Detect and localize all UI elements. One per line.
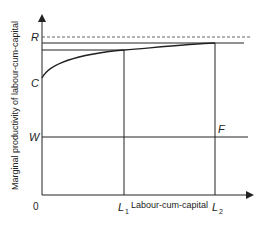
- l2-subscript: 2: [219, 208, 223, 215]
- f-label: F: [218, 123, 226, 135]
- r-label: R: [31, 31, 39, 43]
- origin-label: 0: [33, 201, 39, 212]
- productivity-curve: [42, 43, 215, 78]
- x-axis-label: Labour-cum-capital: [131, 200, 208, 210]
- w-label: W: [29, 131, 41, 143]
- l1-subscript: 1: [125, 208, 129, 215]
- l1-label: L: [118, 201, 124, 213]
- diagram-canvas: R C W F 0 L 1 Labour-cum-capital L 2 Mar…: [0, 0, 270, 225]
- c-label: C: [31, 77, 39, 89]
- y-axis-label: Marginal productivity of labour-cum-capi…: [10, 21, 20, 190]
- l2-label: L: [212, 201, 218, 213]
